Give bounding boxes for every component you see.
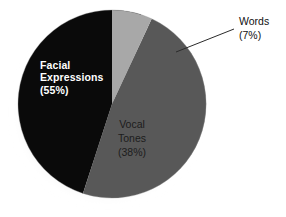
pie-label-words-value: (7%) xyxy=(239,28,269,42)
pie-label-vocal-tones-value: (38%) xyxy=(118,145,146,159)
pie-label-facial-expressions-line1: Facial xyxy=(40,59,104,71)
pie-label-facial-expressions-line2: Expressions xyxy=(40,71,104,83)
words-leader-line xyxy=(176,29,234,52)
pie-label-vocal-tones-line2: Tones xyxy=(118,131,146,145)
pie-label-vocal-tones: Vocal Tones (38%) xyxy=(118,117,146,160)
pie-label-words: Words (7%) xyxy=(239,14,269,42)
pie-label-facial-expressions: Facial Expressions (55%) xyxy=(40,59,104,96)
pie-label-vocal-tones-line1: Vocal xyxy=(118,117,146,131)
pie-chart-figure: Facial Expressions (55%) Vocal Tones (38… xyxy=(0,0,286,217)
pie-label-words-line1: Words xyxy=(239,14,269,28)
pie-label-facial-expressions-value: (55%) xyxy=(40,84,104,96)
